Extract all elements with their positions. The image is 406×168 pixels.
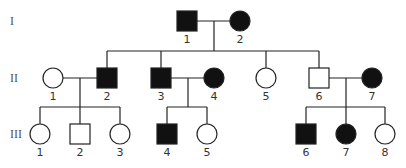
individual-iii-2: 2 bbox=[70, 124, 90, 159]
affected-female-circle-icon bbox=[204, 68, 224, 88]
individual-ii-3: 3 bbox=[151, 68, 171, 103]
individual-number: 1 bbox=[184, 33, 191, 46]
individual-number: 2 bbox=[237, 33, 244, 46]
individual-iii-4: 4 bbox=[157, 124, 177, 159]
individual-ii-1: 1 bbox=[43, 68, 63, 103]
individual-number: 4 bbox=[164, 146, 171, 159]
unaffected-female-circle-icon bbox=[30, 124, 50, 144]
individual-ii-4: 4 bbox=[204, 68, 224, 103]
individual-number: 7 bbox=[343, 146, 350, 159]
individual-number: 5 bbox=[263, 90, 270, 103]
affected-female-circle-icon bbox=[362, 68, 382, 88]
affected-male-square-icon bbox=[296, 124, 316, 144]
individual-iii-5: 5 bbox=[197, 124, 217, 159]
affected-male-square-icon bbox=[151, 68, 171, 88]
pedigree-chart: IIIIII12123456712345678 bbox=[0, 0, 406, 168]
individual-number: 3 bbox=[117, 146, 124, 159]
individual-number: 7 bbox=[369, 90, 376, 103]
affected-male-square-icon bbox=[97, 68, 117, 88]
individual-iii-3: 3 bbox=[110, 124, 130, 159]
affected-male-square-icon bbox=[177, 11, 197, 31]
individual-number: 4 bbox=[211, 90, 218, 103]
unaffected-male-square-icon bbox=[309, 68, 329, 88]
generation-label: II bbox=[10, 71, 18, 85]
individual-number: 6 bbox=[303, 146, 310, 159]
affected-female-circle-icon bbox=[336, 124, 356, 144]
individual-number: 5 bbox=[204, 146, 211, 159]
unaffected-female-circle-icon bbox=[256, 68, 276, 88]
individual-ii-7: 7 bbox=[362, 68, 382, 103]
unaffected-female-circle-icon bbox=[110, 124, 130, 144]
individual-iii-6: 6 bbox=[296, 124, 316, 159]
individual-iii-7: 7 bbox=[336, 124, 356, 159]
individual-number: 6 bbox=[316, 90, 323, 103]
generation-label: III bbox=[10, 127, 22, 141]
unaffected-female-circle-icon bbox=[43, 68, 63, 88]
individual-iii-1: 1 bbox=[30, 124, 50, 159]
individual-number: 1 bbox=[37, 146, 44, 159]
individual-number: 2 bbox=[104, 90, 111, 103]
individual-number: 1 bbox=[50, 90, 57, 103]
individual-i-2: 2 bbox=[230, 11, 250, 46]
unaffected-female-circle-icon bbox=[197, 124, 217, 144]
individual-number: 3 bbox=[158, 90, 165, 103]
individual-number: 2 bbox=[77, 146, 84, 159]
individual-i-1: 1 bbox=[177, 11, 197, 46]
individual-number: 8 bbox=[382, 146, 389, 159]
individual-ii-2: 2 bbox=[97, 68, 117, 103]
unaffected-female-circle-icon bbox=[375, 124, 395, 144]
individual-ii-5: 5 bbox=[256, 68, 276, 103]
unaffected-male-square-icon bbox=[70, 124, 90, 144]
generation-label: I bbox=[10, 14, 14, 28]
affected-male-square-icon bbox=[157, 124, 177, 144]
individual-iii-8: 8 bbox=[375, 124, 395, 159]
affected-female-circle-icon bbox=[230, 11, 250, 31]
individual-ii-6: 6 bbox=[309, 68, 329, 103]
